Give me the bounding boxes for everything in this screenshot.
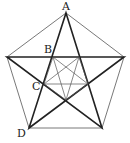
- outer-pentagram: [7, 13, 124, 128]
- label-a: A: [61, 0, 71, 13]
- label-b: B: [44, 43, 52, 56]
- label-d: D: [17, 127, 26, 140]
- label-c: C: [32, 80, 40, 93]
- pentagram-diagram: A B C D: [0, 0, 130, 143]
